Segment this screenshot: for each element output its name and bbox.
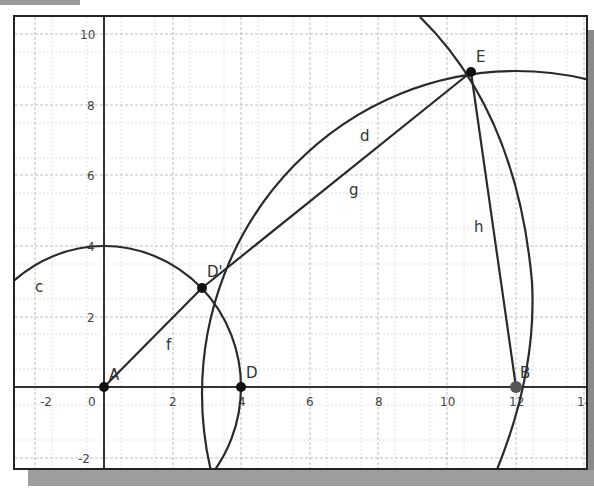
segment-g[interactable] [202, 72, 471, 288]
svg-text:8: 8 [375, 395, 383, 409]
label-b: B [520, 364, 530, 382]
svg-text:-2: -2 [40, 395, 52, 409]
svg-text:10: 10 [80, 28, 95, 42]
svg-text:-2: -2 [78, 452, 90, 466]
svg-text:2: 2 [87, 311, 95, 325]
svg-text:6: 6 [87, 169, 95, 183]
frame-shadow-right [588, 30, 594, 486]
label-e: E [476, 48, 485, 66]
label-d-circle: d [360, 127, 370, 145]
label-c: c [35, 278, 43, 296]
point-e[interactable] [466, 67, 476, 77]
frame-shadow-bottom [28, 470, 594, 486]
point-b[interactable] [510, 381, 522, 393]
svg-text:2: 2 [169, 395, 177, 409]
label-h: h [474, 218, 484, 236]
graphics-view[interactable]: -2 0 2 4 6 8 10 12 14 10 8 6 4 2 -2 [13, 15, 588, 470]
label-d: D [246, 364, 258, 382]
label-g: g [349, 181, 359, 199]
x-tick-labels: -2 0 2 4 6 8 10 12 14 [40, 395, 588, 409]
minor-grid [15, 17, 588, 470]
label-a: A [109, 366, 120, 384]
svg-text:10: 10 [440, 395, 455, 409]
label-d-prime: D' [207, 263, 223, 281]
svg-text:0: 0 [88, 395, 96, 409]
point-d[interactable] [236, 382, 246, 392]
svg-text:12: 12 [509, 395, 524, 409]
major-grid [15, 17, 588, 470]
label-f: f [166, 336, 172, 354]
svg-text:14: 14 [577, 395, 588, 409]
svg-text:6: 6 [306, 395, 314, 409]
window-top-bar [0, 0, 80, 5]
coordinate-plane[interactable]: -2 0 2 4 6 8 10 12 14 10 8 6 4 2 -2 [15, 17, 588, 470]
point-d-prime[interactable] [197, 283, 207, 293]
svg-text:8: 8 [87, 99, 95, 113]
point-a[interactable] [99, 382, 109, 392]
